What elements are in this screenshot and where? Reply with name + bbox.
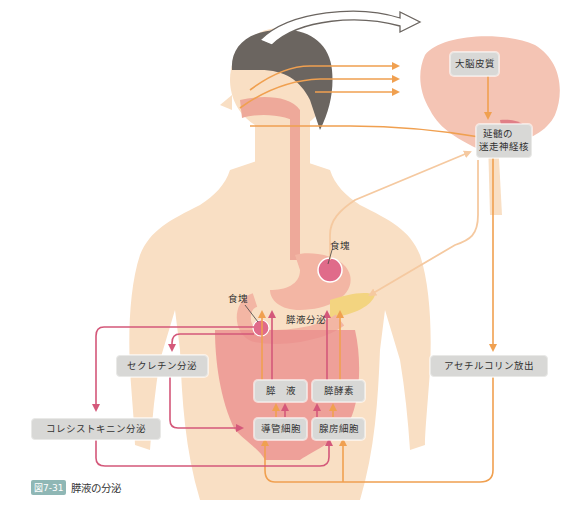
duct-cells-label: 導管細胞 (261, 423, 301, 436)
illustration (0, 0, 585, 525)
cerebral-cortex-box: 大脳皮質 (450, 52, 499, 76)
cerebral-cortex-label: 大脳皮質 (455, 58, 495, 71)
acinar-cells-label: 腺房細胞 (319, 423, 359, 436)
figure-title: 膵液の分泌 (71, 480, 121, 495)
cholecystokinin-box: コレシストキニン分泌 (31, 418, 161, 440)
vagus-nucleus-label-1: 延髄の (477, 128, 513, 141)
vagus-nucleus-box: 延髄の 迷走神経核 (476, 124, 532, 158)
bolus-duodenum-label: 食塊 (228, 291, 248, 305)
secretin-label: セクレチン分泌 (127, 360, 197, 373)
figure-caption: 図7-31 膵液の分泌 (31, 480, 121, 495)
cholecystokinin-label: コレシストキニン分泌 (46, 423, 146, 436)
acinar-cells-box: 腺房細胞 (312, 418, 365, 440)
pancreatic-juice-label: 膵 液 (266, 385, 296, 398)
pancreatic-secretion-label: 膵液分泌 (286, 312, 326, 326)
pancreatic-secretion-diagram: 大脳皮質 延髄の 迷走神経核 食塊 食塊 膵液分泌 セクレチン分泌 コレシストキ… (0, 0, 585, 525)
bolus-stomach-label: 食塊 (330, 238, 350, 252)
vagus-nucleus-label-2: 迷走神経核 (479, 141, 529, 154)
pancreatic-juice-box: 膵 液 (254, 380, 307, 402)
acetylcholine-label: アセチルコリン放出 (444, 360, 534, 373)
acetylcholine-box: アセチルコリン放出 (430, 355, 548, 377)
pancreatic-enzymes-label: 膵酵素 (324, 385, 354, 398)
pancreatic-enzymes-box: 膵酵素 (312, 380, 365, 402)
figure-number: 図7-31 (31, 480, 66, 495)
secretin-box: セクレチン分泌 (116, 355, 208, 377)
duct-cells-box: 導管細胞 (254, 418, 307, 440)
